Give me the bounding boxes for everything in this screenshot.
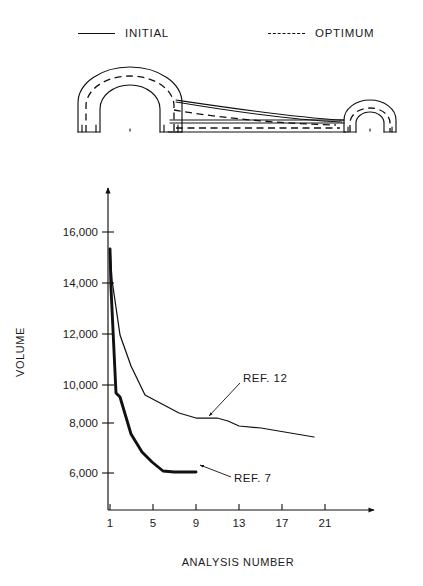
series-line-ref7 <box>110 249 196 472</box>
figure-page: INITIAL OPTIMUM <box>0 0 423 586</box>
legend-entry-initial: INITIAL <box>78 27 169 39</box>
annotation-arrow-ref7 <box>200 465 231 477</box>
legend: INITIAL OPTIMUM <box>0 24 423 50</box>
initial-shape-outline <box>78 67 396 132</box>
annotation-arrow-ref12 <box>209 383 240 416</box>
volume-convergence-chart: VOLUME ANALYSIS NUMBER 16,000 14,000 12,… <box>0 180 423 586</box>
x-axis-ticks <box>110 504 325 510</box>
solid-line-icon <box>78 33 115 34</box>
dashed-line-icon <box>268 33 305 34</box>
series-line-ref12 <box>110 249 314 437</box>
legend-entry-optimum: OPTIMUM <box>268 27 374 39</box>
legend-label-optimum: OPTIMUM <box>315 27 374 39</box>
chart-plot-area <box>0 180 423 586</box>
vehicle-frame-diagram <box>0 62 423 162</box>
legend-label-initial: INITIAL <box>125 27 169 39</box>
